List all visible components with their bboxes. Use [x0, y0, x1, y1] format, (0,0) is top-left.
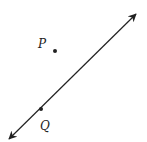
point-q-dot: [39, 107, 43, 111]
point-q-label: Q: [40, 119, 50, 133]
diagram-canvas: P Q: [0, 0, 147, 142]
point-p-dot: [53, 49, 57, 53]
line-through-q: [9, 14, 136, 139]
point-p-label: P: [37, 37, 47, 51]
